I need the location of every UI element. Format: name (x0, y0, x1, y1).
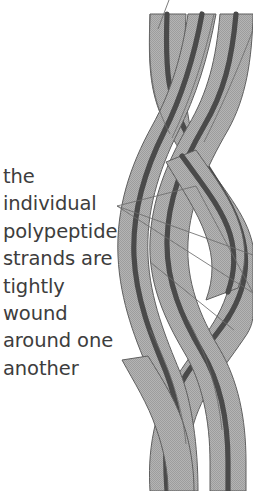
figure-canvas: the individual polypeptide strands are t… (0, 0, 253, 491)
annotation-caption: the individual polypeptide strands are t… (3, 163, 121, 382)
